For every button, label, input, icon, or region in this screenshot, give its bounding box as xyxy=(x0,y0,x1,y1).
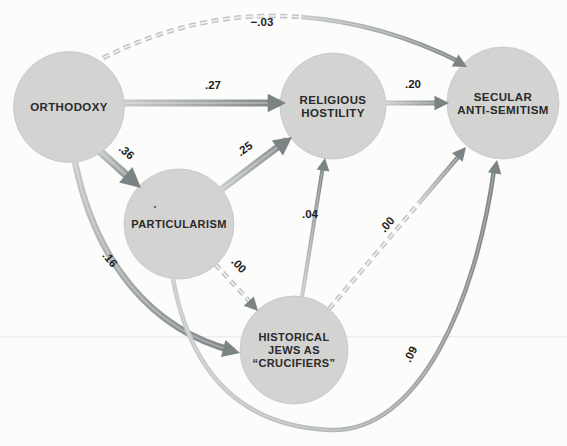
edge-historical_jews--religious_hostility xyxy=(302,166,323,297)
edge-coefficient-historical_jews--religious_hostility: .04 xyxy=(302,208,319,220)
edge-coefficient-historical_jews--secular_anti_semitism: .00 xyxy=(377,214,397,234)
node-label-secular_anti_semitism-line1: ANTI-SEMITISM xyxy=(457,104,548,116)
edge-coefficient-orthodoxy--particularism: .36 xyxy=(117,142,137,162)
edge-line-highlight xyxy=(419,156,459,203)
node-label-religious_hostility-line0: RELIGIOUS xyxy=(300,94,367,106)
edge-coefficient-particularism--religious_hostility: .25 xyxy=(235,139,255,158)
arrowhead-particularism--secular_anti_semitism xyxy=(488,160,502,175)
node-label-historical_jews-line2: “CRUCIFIERS” xyxy=(252,357,335,369)
print-artifact-dot xyxy=(154,206,156,208)
node-label-historical_jews-line1: JEWS AS xyxy=(268,344,320,356)
node-historical_jews: HISTORICALJEWS AS“CRUCIFIERS” xyxy=(240,296,348,404)
node-religious_hostility: RELIGIOUSHOSTILITY xyxy=(280,53,386,159)
node-label-orthodoxy-line0: ORTHODOXY xyxy=(30,101,108,113)
node-label-secular_anti_semitism-line0: SECULAR xyxy=(474,91,533,103)
arrowhead-religious_hostility--secular_anti_semitism xyxy=(435,96,450,111)
edge-line-dashed-core xyxy=(329,203,419,309)
edge-orthodoxy--secular_anti_semitism xyxy=(103,16,462,63)
edge-coefficient-orthodoxy--secular_anti_semitism: −.03 xyxy=(251,16,274,28)
node-orthodoxy: ORTHODOXY xyxy=(14,52,125,163)
edge-coefficient-particularism--secular_anti_semitism: .09 xyxy=(401,344,419,364)
path-diagram-canvas: ORTHODOXYPARTICULARISMRELIGIOUSHOSTILITY… xyxy=(0,0,567,446)
edge-coefficient-religious_hostility--secular_anti_semitism: .20 xyxy=(405,78,421,90)
path-diagram-figure: ORTHODOXYPARTICULARISMRELIGIOUSHOSTILITY… xyxy=(0,0,567,446)
node-label-particularism-line0: PARTICULARISM xyxy=(131,218,226,230)
edge-coefficient-orthodoxy--religious_hostility: .27 xyxy=(205,79,221,91)
node-label-historical_jews-line0: HISTORICAL xyxy=(258,331,329,343)
node-particularism: PARTICULARISM xyxy=(124,169,234,279)
node-label-religious_hostility-line1: HOSTILITY xyxy=(301,107,365,119)
edge-historical_jews--secular_anti_semitism xyxy=(329,156,459,309)
edge-coefficient-particularism--historical_jews: .00 xyxy=(229,255,249,275)
edge-line-highlight xyxy=(302,166,323,297)
arrowhead-orthodoxy--historical_jews xyxy=(221,340,240,357)
arrowhead-historical_jews--religious_hostility xyxy=(317,158,330,171)
